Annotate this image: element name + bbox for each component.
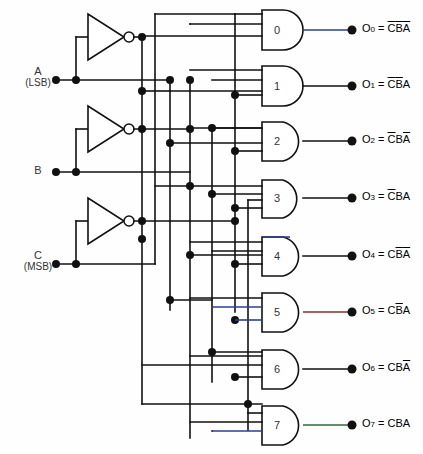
gate-2-group: 2 — [170, 122, 357, 161]
output-label-7: O7 = CBA — [362, 417, 410, 429]
literal-C-bar: C — [388, 133, 396, 145]
gate-4-group: 4 — [190, 237, 357, 276]
output-name: O — [362, 361, 371, 373]
literal-A: A — [403, 417, 410, 429]
gate-1-number: 1 — [274, 80, 280, 92]
equals-sign: = — [375, 78, 388, 90]
output-label-4: O4 = CBA — [362, 248, 410, 260]
gate-7-number: 7 — [274, 419, 280, 431]
equals-sign: = — [375, 190, 388, 202]
literal-A: A — [403, 78, 410, 90]
gate-4-number: 4 — [274, 250, 280, 262]
literal-C-bar: C — [388, 22, 396, 34]
junction-dot — [186, 76, 194, 84]
junction-dot — [138, 235, 146, 243]
gate-1-output-dot — [348, 82, 357, 91]
literal-B: B — [396, 417, 403, 429]
notB-junction-dot — [138, 125, 146, 133]
literal-C: C — [388, 248, 396, 260]
gate-3-number: 3 — [274, 192, 280, 204]
literal-C: C — [388, 361, 396, 373]
literal-A-bar: A — [403, 248, 410, 260]
input-A-group — [52, 14, 170, 84]
output-name: O — [362, 78, 371, 90]
inverter-C-bubble — [124, 216, 134, 226]
equals-sign: = — [375, 22, 388, 34]
literal-A: A — [403, 190, 410, 202]
literal-B-bar: B — [396, 22, 403, 34]
input-C-group — [52, 198, 239, 268]
gate-7-group: 7 — [142, 404, 357, 445]
inverter-A-bubble — [124, 32, 134, 42]
inverter-A — [88, 14, 124, 60]
equals-sign: = — [375, 417, 388, 429]
literal-A-bar: A — [403, 22, 410, 34]
input-A-junction-dot — [72, 76, 80, 84]
gate-2-output-dot — [348, 137, 357, 146]
inverter-B-bubble — [124, 124, 134, 134]
circuit-diagram-canvas: 0 1 2 3 — [0, 0, 423, 454]
input-B-junction-dot — [72, 168, 80, 176]
and-gate-7 — [262, 406, 299, 445]
gate-5-output-dot — [348, 308, 357, 317]
output-name: O — [362, 22, 371, 34]
input-label-B: B — [18, 164, 58, 176]
literal-C: C — [388, 304, 396, 316]
equals-sign: = — [375, 361, 388, 373]
gate-3-group: 3 — [155, 180, 357, 218]
gate-4-output-dot — [348, 252, 357, 261]
and-gate-2 — [262, 122, 299, 161]
output-name: O — [362, 190, 371, 202]
literal-B: B — [396, 133, 403, 145]
notB-bus-dot — [186, 125, 194, 133]
gate-2-number: 2 — [274, 135, 280, 147]
inverter-B — [88, 106, 124, 152]
output-name: O — [362, 133, 371, 145]
and-gate-6 — [262, 350, 299, 389]
output-label-0: O0 = CBA — [362, 22, 410, 34]
literal-A-bar: A — [403, 133, 410, 145]
literal-B-bar: B — [396, 78, 403, 90]
output-name: O — [362, 417, 371, 429]
inverter-C — [88, 198, 124, 244]
literal-B: B — [396, 361, 403, 373]
gate-6-output-dot — [348, 365, 357, 374]
output-name: O — [362, 304, 371, 316]
gate-7-output-dot — [348, 421, 357, 430]
output-name: O — [362, 248, 371, 260]
and-gate-1 — [262, 66, 303, 106]
input-label-A: A (LSB) — [18, 65, 58, 88]
literal-C-bar: C — [388, 78, 396, 90]
gate-5-group: 5 — [170, 293, 357, 332]
equals-sign: = — [375, 133, 388, 145]
notC-junction-dot — [138, 217, 146, 225]
gate-1-group: 1 — [142, 66, 357, 106]
and-gate-0 — [262, 10, 303, 50]
gate-3-output-dot — [348, 194, 357, 203]
literal-C-bar: C — [388, 190, 396, 202]
literal-A: A — [403, 304, 410, 316]
literal-B-bar: B — [396, 248, 403, 260]
output-label-6: O6 = CBA — [362, 361, 410, 373]
gate-6-number: 6 — [274, 363, 280, 375]
junction-dot — [166, 76, 174, 84]
literal-A-bar: A — [403, 361, 410, 373]
input-C-junction-dot — [72, 260, 80, 268]
notC-bus-dot — [231, 217, 239, 225]
output-label-5: O5 = CBA — [362, 304, 410, 316]
literal-B: B — [396, 190, 403, 202]
input-label-C: C (MSB) — [18, 249, 58, 272]
gate-0-output-dot — [348, 26, 357, 35]
output-label-1: O1 = CBA — [362, 78, 410, 90]
literal-B-bar: B — [396, 304, 403, 316]
output-label-3: O3 = CBA — [362, 190, 410, 202]
equals-sign: = — [375, 304, 388, 316]
gate-0-number: 0 — [274, 24, 280, 36]
equals-sign: = — [375, 248, 388, 260]
gate-6-group: 6 — [142, 350, 357, 389]
gate-0-group: 0 — [142, 10, 357, 50]
and-gate-4 — [262, 237, 299, 276]
logic-circuit-svg: 0 1 2 3 — [0, 0, 423, 454]
literal-C: C — [388, 417, 396, 429]
notA-junction-dot — [138, 33, 146, 41]
